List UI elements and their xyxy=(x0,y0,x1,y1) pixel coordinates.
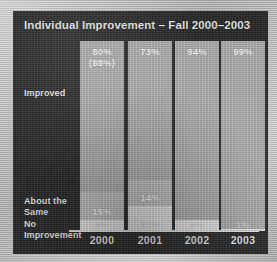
bar-column-2003[interactable]: 99%1% xyxy=(221,41,265,231)
row-label-about-the-same: About the Same xyxy=(24,196,67,217)
bar-value-improved-2003: 99% xyxy=(221,47,265,58)
bar-value-about-the-same-2001: 14% xyxy=(128,193,172,204)
x-axis-tick-2002: 2002 xyxy=(175,234,219,246)
bar-segment-no-improvement-2001[interactable]: 13% xyxy=(128,206,172,231)
bar-column-2002[interactable]: 94%6% xyxy=(175,41,219,231)
slide-frame: Individual Improvement – Fall 2000–2003 … xyxy=(0,0,277,262)
bar-segment-about-the-same-2000[interactable]: 15% xyxy=(80,192,124,220)
bar-column-2000[interactable]: 80% (88%)15%6% xyxy=(80,41,124,231)
bar-value-improved-2000: 80% (88%) xyxy=(80,47,124,69)
bar-column-2001[interactable]: 73%14%13% xyxy=(128,41,172,231)
bar-segment-improved-2000[interactable]: 80% (88%) xyxy=(80,41,124,192)
chart-slide: Individual Improvement – Fall 2000–2003 … xyxy=(13,11,268,254)
bar-value-improved-2002: 94% xyxy=(175,47,219,58)
page-title: Individual Improvement – Fall 2000–2003 xyxy=(24,19,250,31)
bar-segment-improved-2002[interactable]: 94% xyxy=(175,41,219,220)
x-axis-tick-2001: 2001 xyxy=(128,234,172,246)
bar-value-about-the-same-2000: 15% xyxy=(80,207,124,218)
bar-segment-improved-2003[interactable]: 99% xyxy=(221,41,265,229)
bar-segment-about-the-same-2001[interactable]: 14% xyxy=(128,180,172,207)
x-axis-labels: 2000200120022003 xyxy=(13,234,268,252)
x-axis-tick-2003: 2003 xyxy=(221,234,265,246)
bar-value-improved-2001: 73% xyxy=(128,47,172,58)
x-axis-line xyxy=(69,230,259,232)
x-axis-tick-2000: 2000 xyxy=(80,234,124,246)
row-label-improved: Improved xyxy=(24,88,65,99)
bar-segment-improved-2001[interactable]: 73% xyxy=(128,41,172,180)
